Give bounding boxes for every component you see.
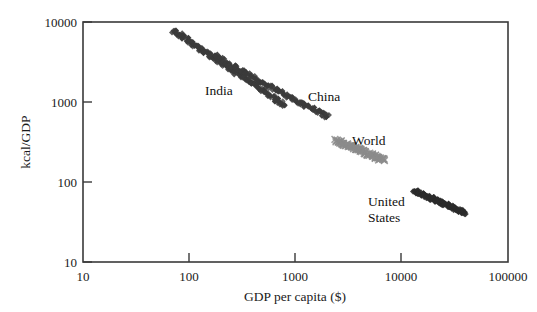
chart-figure: 10000 1000 100 10 10 100 1000 10000 1000…: [0, 0, 537, 312]
annotation-united-states-line2: States: [368, 210, 400, 225]
y-tick-label-10: 10: [64, 255, 77, 270]
y-tick-label-1000: 1000: [51, 95, 77, 110]
x-axis-ticks: [189, 253, 401, 262]
y-tick-label-100: 100: [58, 175, 78, 190]
x-tick-label-1000: 1000: [282, 269, 308, 284]
annotation-united-states-line1: United: [368, 194, 405, 209]
y-axis-title: kcal/GDP: [18, 115, 33, 168]
y-tick-label-10000: 10000: [45, 15, 78, 30]
x-axis-title: GDP per capita ($): [244, 289, 346, 304]
scatter-plot-svg: 10000 1000 100 10 10 100 1000 10000 1000…: [0, 0, 537, 312]
x-tick-label-100000: 100000: [489, 269, 528, 284]
plot-frame: [83, 22, 508, 262]
annotation-world: World: [352, 133, 386, 148]
y-axis-ticks: [83, 22, 92, 262]
x-tick-label-10000: 10000: [385, 269, 418, 284]
annotation-china: China: [308, 89, 340, 104]
x-tick-label-100: 100: [179, 269, 199, 284]
x-tick-label-10: 10: [77, 269, 90, 284]
annotation-india: India: [205, 83, 233, 98]
series-points-united-states: [410, 187, 469, 217]
